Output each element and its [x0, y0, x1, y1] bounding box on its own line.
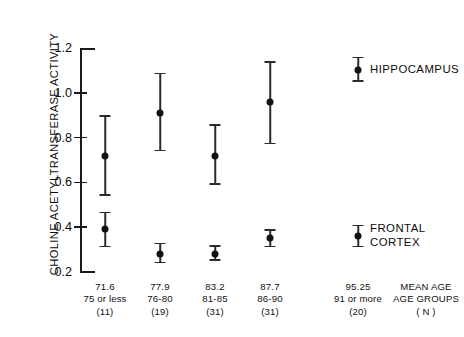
- error-bar-cap-upper: [265, 61, 276, 63]
- data-point-frontal-cortex-2: [150, 243, 170, 263]
- marker-dot: [102, 226, 109, 233]
- error-bar-cap-lower: [100, 246, 111, 248]
- y-tick-label-0.2: 0.2: [36, 265, 72, 279]
- marker-dot: [267, 98, 274, 105]
- y-tick-label-1.2: 1.2: [36, 41, 72, 55]
- x-group-count: (31): [222, 306, 318, 318]
- y-axis-top-cap: [81, 48, 95, 50]
- data-point-frontal-cortex-3: [205, 245, 225, 261]
- y-tick-label-0.6: 0.6: [36, 175, 72, 189]
- error-bar-cap-upper: [100, 212, 111, 214]
- marker-dot: [102, 152, 109, 159]
- y-tick-label-0.8: 0.8: [36, 131, 72, 145]
- x-group-range: 86-90: [222, 293, 318, 305]
- marker-dot: [267, 235, 274, 242]
- y-tick-label-1.0: 1.0: [36, 86, 72, 100]
- y-tick-0.6: [74, 182, 87, 184]
- error-bar-cap-upper: [100, 115, 111, 117]
- chart-figure: CHOLINE ACETYLTRANSFERASE ACTIVITY 0.20.…: [0, 0, 464, 337]
- error-bar-cap-lower: [155, 262, 166, 264]
- y-tick-0.4: [74, 226, 87, 228]
- marker-dot: [212, 251, 219, 258]
- error-bar-cap-lower: [353, 246, 364, 248]
- marker-dot: [355, 233, 362, 240]
- marker-dot: [157, 109, 164, 116]
- x-axis-footer-legend: MEAN AGE AGE GROUPS ( N ): [378, 281, 464, 318]
- y-axis-spine: [80, 48, 82, 273]
- y-axis-bottom-cap: [81, 271, 95, 273]
- error-bar-cap-lower: [210, 183, 221, 185]
- error-bar-cap-upper: [210, 245, 221, 247]
- error-bar-cap-lower: [210, 259, 221, 261]
- data-point-hippocampus-4: [260, 61, 280, 144]
- footer-n: ( N ): [378, 306, 464, 318]
- error-bar-cap-upper: [155, 73, 166, 75]
- error-bar-cap-lower: [353, 80, 364, 82]
- error-bar-cap-upper: [353, 57, 364, 59]
- error-bar-cap-lower: [100, 194, 111, 196]
- error-bar-cap-lower: [265, 246, 276, 248]
- y-tick-0.8: [74, 137, 87, 139]
- data-point-frontal-cortex-4: [260, 229, 280, 247]
- marker-dot: [355, 67, 362, 74]
- data-point-hippocampus-3: [205, 124, 225, 184]
- legend-label-frontal-cortex-line1: FRONTAL: [370, 222, 425, 236]
- y-axis-title: CHOLINE ACETYLTRANSFERASE ACTIVITY: [48, 14, 60, 294]
- footer-age-groups: AGE GROUPS: [378, 293, 464, 305]
- legend-label-hippocampus: HIPPOCAMPUS: [370, 63, 459, 77]
- data-point-hippocampus-1: [95, 115, 115, 196]
- data-point-hippocampus-2: [150, 73, 170, 151]
- error-bar-cap-upper: [210, 124, 221, 126]
- marker-dot: [157, 251, 164, 258]
- data-point-frontal-cortex-5: [348, 225, 368, 247]
- x-group-4: 87.786-90(31): [222, 281, 318, 318]
- error-bar-cap-upper: [353, 225, 364, 227]
- legend-label-frontal-cortex-line2: CORTEX: [370, 236, 420, 250]
- y-tick-1.0: [74, 92, 87, 94]
- x-group-mean-age: 87.7: [222, 281, 318, 293]
- error-bar-cap-upper: [265, 229, 276, 231]
- y-tick-label-0.4: 0.4: [36, 220, 72, 234]
- error-bar-cap-lower: [155, 150, 166, 152]
- footer-mean-age: MEAN AGE: [378, 281, 464, 293]
- error-bar-cap-lower: [265, 143, 276, 145]
- data-point-frontal-cortex-1: [95, 212, 115, 248]
- data-point-hippocampus-5: [348, 57, 368, 82]
- error-bar-cap-upper: [155, 243, 166, 245]
- marker-dot: [212, 152, 219, 159]
